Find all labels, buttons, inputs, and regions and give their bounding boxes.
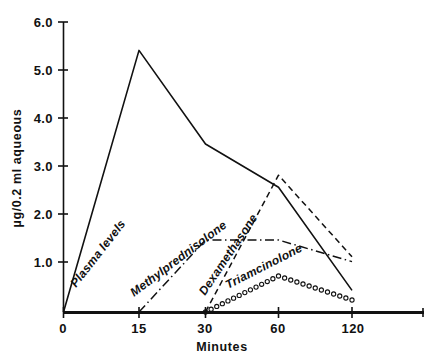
- series-label-plasma-levels: Plasma levels: [67, 217, 128, 290]
- triamcinolone-marker: [313, 286, 317, 290]
- x-tick-label-60: 60: [270, 321, 285, 336]
- triamcinolone-marker: [319, 288, 323, 292]
- triamcinolone-marker: [237, 293, 241, 297]
- y-tick-label-6: 6.0: [34, 15, 53, 30]
- triamcinolone-marker: [283, 276, 287, 280]
- chart-figure: 6.0 5.0 4.0 3.0 2.0 1.0 µg/0.2 ml aqueou…: [0, 0, 441, 355]
- triamcinolone-marker: [265, 279, 269, 283]
- triamcinolone-marker: [276, 274, 280, 278]
- y-tick-label-1: 1.0: [34, 255, 53, 270]
- triamcinolone-marker: [295, 280, 299, 284]
- x-tick-label-30: 30: [197, 321, 212, 336]
- y-tick-label-4: 4.0: [34, 111, 53, 126]
- x-axis-title: Minutes: [196, 340, 247, 354]
- triamcinolone-marker: [350, 298, 354, 302]
- triamcinolone-marker: [271, 277, 275, 281]
- triamcinolone-marker: [260, 282, 264, 286]
- triamcinolone-marker: [231, 296, 235, 300]
- triamcinolone-marker: [344, 296, 348, 300]
- line-chart-plot: 6.0 5.0 4.0 3.0 2.0 1.0 µg/0.2 ml aqueou…: [0, 0, 441, 355]
- triamcinolone-marker: [215, 304, 219, 308]
- y-tick-label-5: 5.0: [34, 63, 53, 78]
- x-tick-label-120: 120: [342, 321, 365, 336]
- triamcinolone-marker: [289, 278, 293, 282]
- y-tick-label-2: 2.0: [34, 207, 53, 222]
- triamcinolone-marker: [243, 291, 247, 295]
- triamcinolone-marker: [220, 302, 224, 306]
- triamcinolone-marker: [332, 292, 336, 296]
- triamcinolone-marker: [226, 299, 230, 303]
- x-tick-label-0: 0: [59, 321, 67, 336]
- triamcinolone-marker: [325, 290, 329, 294]
- triamcinolone-marker: [338, 294, 342, 298]
- triamcinolone-marker: [301, 282, 305, 286]
- triamcinolone-marker: [209, 307, 213, 311]
- triamcinolone-marker: [248, 288, 252, 292]
- y-axis-title: µg/0.2 ml aqueous: [10, 109, 24, 228]
- x-tick-label-15: 15: [131, 321, 146, 336]
- triamcinolone-marker: [254, 285, 258, 289]
- triamcinolone-marker: [307, 284, 311, 288]
- y-tick-label-3: 3.0: [34, 159, 53, 174]
